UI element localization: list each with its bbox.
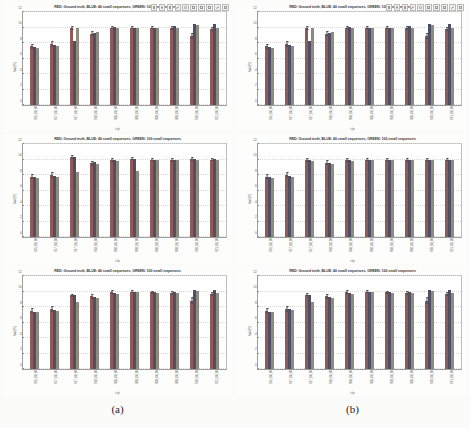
y-tick-label: 12 [18,139,21,142]
y-tick-label: 0 [255,100,257,103]
x-tick-label: S15_08_00 [34,238,38,252]
chart-panel-a-middle: RED: Ground truth, BLUE: 40 small sequen… [3,134,232,264]
rotate-icon[interactable] [410,4,417,11]
chart-panel-b-bottom: RED: Ground truth, BLUE: 40 small sequen… [238,266,467,396]
chart-panel-a-bottom: RED: Ground truth, BLUE: 40 small sequen… [3,266,232,396]
legend-icon[interactable] [433,4,440,11]
bar-group [425,276,433,369]
x-axis-label: clip [3,259,232,263]
x-tick: S08_08_00 [345,106,354,128]
error-bar [111,158,112,162]
bar-group [385,144,393,237]
x-axis-label: clip [238,391,467,395]
y-tick-label: 10 [253,23,256,26]
insert-icon[interactable] [222,4,229,11]
x-tick: S08_08_00 [171,106,180,128]
y-tick-label: 2 [20,349,22,352]
datacursor-icon[interactable] [417,4,424,11]
y-tick-label: 12 [253,139,256,142]
x-tick-label: S08_08_00 [410,106,414,120]
pan-icon-glyph [169,6,171,8]
save-icon[interactable] [386,4,393,11]
bar [196,25,199,105]
x-tick-label: S21_08_00 [215,238,219,252]
error-bar [111,26,112,29]
link-icon[interactable] [214,4,221,11]
pan-icon[interactable] [402,4,409,11]
error-bar [346,158,347,162]
x-tick: S08_08_00 [171,370,180,392]
x-tick: S08_08_00 [385,370,394,392]
bar-group [110,144,118,237]
bar-series-container [258,12,461,105]
x-tick: S15_08_00 [264,370,273,392]
bar [156,28,159,106]
error-bar [266,174,267,179]
bar [411,160,414,237]
x-tick: S20_08_00 [426,106,435,128]
x-tick: S08_08_00 [365,238,374,260]
x-tick-label: S08_08_00 [114,238,118,252]
bar-group [365,276,373,369]
legend-icon[interactable] [198,4,205,11]
bar-group [305,144,313,237]
bar [271,48,274,105]
error-bar [306,158,307,162]
bar [371,160,374,237]
hide-icon-glyph [208,6,210,8]
insert-icon[interactable] [457,4,464,11]
bar-group [90,144,98,237]
bar [156,160,159,238]
link-icon[interactable] [449,4,456,11]
hide-icon[interactable] [441,4,448,11]
plot-toolbar[interactable] [151,5,229,11]
link-icon-glyph [451,6,454,9]
pan-icon[interactable] [167,4,174,11]
x-tick-labels: S15_08_00S17_08_00S17_08_00S18_08_00S08_… [257,238,462,260]
datacursor-icon-glyph [419,6,421,8]
rotate-icon[interactable] [175,4,182,11]
x-tick: S08_08_00 [345,238,354,260]
x-tick: S17_08_00 [70,370,79,392]
hide-icon[interactable] [206,4,213,11]
datacursor-icon[interactable] [182,4,189,11]
x-tick: S08_08_00 [130,106,139,128]
zoom-icon[interactable] [394,4,401,11]
chart-panel-b-top: RED: Ground truth, BLUE: 40 small sequen… [238,2,467,132]
bar [331,32,334,105]
bar-group [365,144,373,237]
plot-toolbar[interactable] [386,5,464,11]
error-bar [306,293,307,297]
x-tick-label: S08_08_00 [175,238,179,252]
x-tick: S17_08_00 [285,238,294,260]
x-tick-label: S08_08_00 [155,106,159,120]
bar [291,177,294,237]
x-tick-label: S15_08_00 [269,106,273,120]
bar-group [110,12,118,105]
x-tick: S08_08_00 [385,106,394,128]
colorbar-icon[interactable] [425,4,432,11]
error-bar [286,41,287,47]
error-bar [406,158,407,162]
bar-group [70,144,78,237]
x-tick: S17_08_00 [50,106,59,128]
bar [76,172,79,237]
y-tick-label: 8 [20,302,22,305]
chart-title: RED: Ground truth, BLUE: 40 small sequen… [3,137,232,142]
chart-panel-a-top: RED: Ground truth, BLUE: 40 small sequen… [3,2,232,132]
y-tick-label: 6 [20,186,22,189]
y-axis-label: Val (R) [247,62,251,71]
colorbar-icon[interactable] [190,4,197,11]
x-tick: S17_08_00 [70,238,79,260]
chart-title: RED: Ground truth, BLUE: 40 small sequen… [238,269,467,274]
y-tick-label: 0 [20,100,22,103]
error-bar [306,26,307,30]
bar-group [150,12,158,105]
zoom-icon[interactable] [159,4,166,11]
error-bar [211,27,212,31]
error-bar [446,158,447,162]
error-bar [31,308,32,313]
x-tick: S17_08_00 [50,370,59,392]
x-tick: S08_08_00 [171,238,180,260]
save-icon[interactable] [151,4,158,11]
